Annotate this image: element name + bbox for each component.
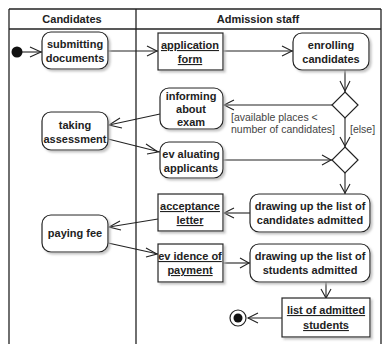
decision-node-places	[332, 92, 358, 118]
label-draw-stud-1: drawing up the list of	[255, 250, 366, 262]
guard-available-2: number of candidates]	[231, 123, 335, 135]
label-evidence-2: payment	[167, 264, 213, 276]
label-app-form-1: application	[161, 39, 219, 51]
label-submitting-1: submitting	[47, 38, 103, 50]
merge-node	[332, 147, 358, 173]
label-informing-3: exam	[177, 116, 205, 128]
guard-available-1: [available places <	[231, 111, 318, 123]
label-taking-2: assessment	[44, 133, 107, 145]
label-paying-fee: paying fee	[48, 227, 102, 239]
label-draw-stud-2: students admitted	[263, 264, 358, 276]
label-informing-1: informing	[166, 90, 217, 102]
label-evaluating-1: ev aluating	[162, 148, 219, 160]
label-enrolling-1: enrolling	[308, 39, 354, 51]
label-accept-1: acceptance	[160, 200, 220, 212]
label-evaluating-2: applicants	[164, 162, 218, 174]
initial-node	[12, 47, 23, 58]
label-taking-1: taking	[59, 119, 91, 131]
label-evidence-1: ev idence of	[158, 250, 222, 262]
lane-header-candidates: Candidates	[42, 13, 101, 25]
label-list-students-1: list of admitted	[287, 304, 365, 316]
activity-diagram: Candidates Admission staff	[0, 0, 385, 347]
label-submitting-2: documents	[46, 52, 105, 64]
final-node	[230, 310, 246, 326]
label-accept-2: letter	[177, 214, 205, 226]
label-draw-cand-1: drawing up the list of	[255, 200, 366, 212]
label-informing-2: about	[176, 103, 206, 115]
label-app-form-2: form	[178, 53, 203, 65]
label-list-students-2: students	[303, 319, 349, 331]
guard-else: [else]	[350, 123, 375, 135]
lane-header-admission-staff: Admission staff	[217, 13, 300, 25]
label-draw-cand-2: candidates admitted	[257, 214, 363, 226]
label-enrolling-2: candidates	[302, 53, 359, 65]
